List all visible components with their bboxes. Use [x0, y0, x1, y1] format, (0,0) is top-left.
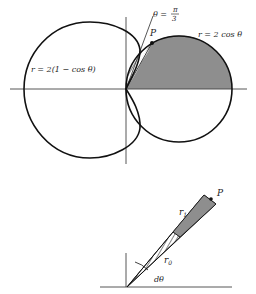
- polar-area-diagram: P θ = π 3 r = 2 cos θ r = 2(1 − cos θ) P…: [0, 0, 256, 294]
- label-theta-num: π: [172, 6, 178, 14]
- label-circle-eq: r = 2 cos θ: [198, 30, 242, 39]
- label-r0: r0: [164, 255, 172, 266]
- label-dtheta: dθ: [154, 275, 164, 284]
- cardioid-curve: [24, 22, 140, 158]
- point-p: [150, 41, 154, 45]
- label-r1: r1: [179, 207, 187, 218]
- bottom-label-p: P: [216, 188, 224, 198]
- label-p: P: [149, 28, 157, 38]
- label-theta: θ =: [153, 10, 167, 19]
- bottom-point-p: [209, 197, 213, 201]
- label-cardioid-eq: r = 2(1 − cos θ): [31, 65, 96, 74]
- label-theta-den: 3: [172, 15, 177, 23]
- bottom-figure: P r1 r0 dθ: [100, 188, 232, 287]
- top-figure: P θ = π 3 r = 2 cos θ r = 2(1 − cos θ): [10, 6, 247, 164]
- shaded-region: [126, 36, 232, 89]
